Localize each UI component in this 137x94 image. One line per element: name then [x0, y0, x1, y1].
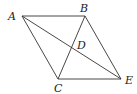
- segment-be: [85, 16, 121, 79]
- label-b: B: [79, 2, 88, 15]
- label-e: E: [124, 74, 133, 87]
- label-c: C: [54, 82, 63, 94]
- parallelogram-diagram: A B D C E: [0, 0, 137, 94]
- label-a: A: [7, 10, 16, 23]
- segment-ca: [22, 16, 58, 79]
- label-d: D: [76, 39, 86, 52]
